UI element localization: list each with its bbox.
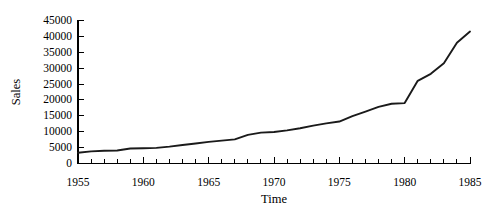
y-tick-label-5000: 5000 [49,141,72,153]
sales-series-line [78,32,470,153]
y-axis-tick-marks [78,20,84,163]
x-tick-label-1980: 1980 [393,176,416,188]
y-tick-label-25000: 25000 [43,78,72,90]
y-tick-label-30000: 30000 [43,62,72,74]
sales-over-time-line-chart: 0 5000 10000 15000 20000 25000 30000 350… [0,0,492,209]
y-axis-title: Sales [9,79,23,106]
x-tick-label-1975: 1975 [328,176,351,188]
x-tick-label-1955: 1955 [67,176,90,188]
x-axis-title: Time [261,192,287,206]
x-tick-label-1965: 1965 [197,176,220,188]
y-tick-label-45000: 45000 [43,14,72,26]
y-tick-label-40000: 40000 [43,30,72,42]
y-tick-label-10000: 10000 [43,125,72,137]
y-tick-label-0: 0 [66,157,72,169]
x-tick-label-1960: 1960 [132,176,155,188]
x-axis-tick-labels: 1955 1960 1965 1970 1975 1980 1985 [67,176,482,188]
x-tick-label-1970: 1970 [263,176,286,188]
x-tick-label-1985: 1985 [459,176,482,188]
y-tick-label-15000: 15000 [43,109,72,121]
chart-canvas: 0 5000 10000 15000 20000 25000 30000 350… [0,0,492,209]
y-tick-label-35000: 35000 [43,46,72,58]
x-axis-tick-marks [78,157,470,164]
y-axis-tick-labels: 0 5000 10000 15000 20000 25000 30000 350… [43,14,72,169]
y-tick-label-20000: 20000 [43,93,72,105]
